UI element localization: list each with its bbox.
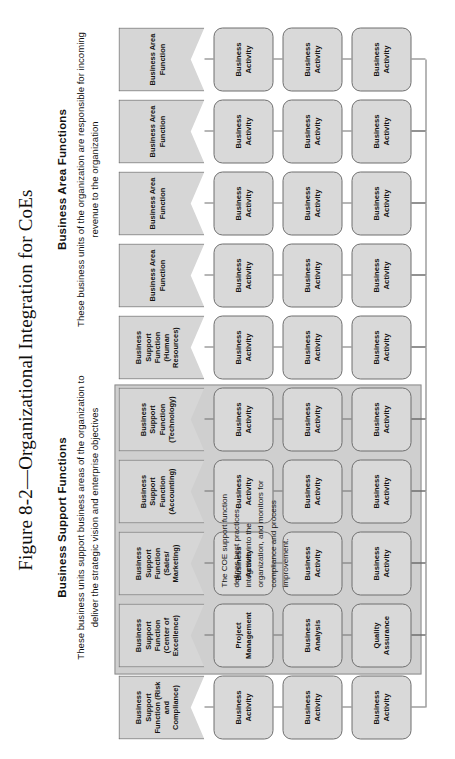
activity-label: Business Activity <box>233 172 253 234</box>
bracket-segment <box>411 706 425 707</box>
activity-box[interactable]: Business Activity <box>351 387 411 451</box>
connector <box>204 347 213 348</box>
activity-label: Business Activity <box>233 244 253 306</box>
activity-box[interactable]: Business Activity <box>213 315 273 379</box>
connector <box>204 59 213 60</box>
connector <box>342 347 351 348</box>
bracket-segment <box>411 634 425 635</box>
connector <box>342 419 351 420</box>
business-support-functions-subtitle: These business units support business ar… <box>73 367 101 667</box>
activity-box[interactable]: Business Activity <box>351 171 411 235</box>
column-header-label: Business Area Function <box>147 100 166 162</box>
column-header-business-area-3[interactable]: Business Area Function <box>118 99 204 163</box>
column-business-area-2[interactable]: Business Area FunctionBusiness ActivityB… <box>118 171 411 235</box>
column-header-label: Business Support Function (Accounting) <box>138 460 175 522</box>
connector <box>342 491 351 492</box>
activity-box[interactable]: Business Activity <box>282 27 342 91</box>
activity-box[interactable]: Business Activity <box>213 99 273 163</box>
activity-label: Business Activity <box>233 28 253 90</box>
column-header-label: Business Support Function (Human Resourc… <box>133 316 180 378</box>
activity-box[interactable]: Quality Assurance <box>351 603 411 667</box>
column-header-sales-marketing[interactable]: Business Support Function (Sales/ Market… <box>118 531 204 595</box>
activity-box[interactable]: Business Activity <box>213 243 273 307</box>
activity-label: Business Activity <box>302 388 322 450</box>
activity-box[interactable]: Business Activity <box>351 315 411 379</box>
column-header-label: Business Area Function <box>147 28 166 90</box>
column-header-label: Business Support Function (Technology) <box>138 388 175 450</box>
column-header-risk-and-compliance[interactable]: Business Support Function (Risk and Comp… <box>118 675 204 739</box>
connector <box>273 347 282 348</box>
activity-box[interactable]: Business Analysis <box>282 603 342 667</box>
column-human-resources[interactable]: Business Support Function (Human Resourc… <box>118 315 411 379</box>
activity-label: Business Activity <box>233 676 253 738</box>
activity-box[interactable]: Business Activity <box>213 387 273 451</box>
bracket-segment <box>425 491 426 563</box>
activity-box[interactable]: Business Activity <box>351 27 411 91</box>
column-business-area-1[interactable]: Business Area FunctionBusiness ActivityB… <box>118 243 411 307</box>
figure-title: Figure 8-2—Organizational Integration fo… <box>14 0 36 759</box>
connector <box>342 275 351 276</box>
column-header-human-resources[interactable]: Business Support Function (Human Resourc… <box>118 315 204 379</box>
activity-label: Business Activity <box>302 244 322 306</box>
connector <box>342 635 351 636</box>
column-business-area-3[interactable]: Business Area FunctionBusiness ActivityB… <box>118 99 411 163</box>
connector <box>273 419 282 420</box>
column-technology[interactable]: Business Support Function (Technology)Bu… <box>118 387 411 451</box>
activity-box[interactable]: Business Activity <box>213 27 273 91</box>
connector <box>342 563 351 564</box>
activity-label: Business Activity <box>371 388 391 450</box>
bracket-segment <box>425 203 426 275</box>
connector <box>204 707 213 708</box>
activity-box[interactable]: Business Activity <box>282 99 342 163</box>
bracket-segment <box>411 202 425 203</box>
activity-label: Business Activity <box>302 172 322 234</box>
activity-box[interactable]: Business Activity <box>351 99 411 163</box>
activity-label: Business Activity <box>371 460 391 522</box>
activity-box[interactable]: Project Management <box>213 603 273 667</box>
connector <box>273 635 282 636</box>
activity-label: Business Activity <box>302 532 322 594</box>
activity-label: Business Activity <box>233 100 253 162</box>
connector <box>273 707 282 708</box>
activity-box[interactable]: Business Activity <box>282 315 342 379</box>
activity-box[interactable]: Business Activity <box>351 459 411 523</box>
bracket-segment <box>425 275 426 347</box>
activity-label: Business Activity <box>302 28 322 90</box>
bracket-segment <box>425 635 426 707</box>
coe-note: The COE support function defines best pr… <box>218 475 291 587</box>
activity-label: Business Activity <box>302 460 322 522</box>
column-header-label: Business Support Function (Risk and Comp… <box>133 676 180 738</box>
connector <box>342 707 351 708</box>
connector <box>204 563 213 564</box>
bracket-segment <box>411 562 425 563</box>
activity-box[interactable]: Business Activity <box>213 675 273 739</box>
activity-box[interactable]: Business Activity <box>282 387 342 451</box>
activity-box[interactable]: Business Activity <box>351 243 411 307</box>
bracket-segment <box>425 419 426 491</box>
column-header-technology[interactable]: Business Support Function (Technology) <box>118 387 204 451</box>
column-header-label: Business Area Function <box>147 172 166 234</box>
bracket-segment <box>411 130 425 131</box>
column-header-business-area-4[interactable]: Business Area Function <box>118 27 204 91</box>
activity-box[interactable]: Business Activity <box>351 531 411 595</box>
activity-label: Business Activity <box>371 532 391 594</box>
activity-box[interactable]: Business Activity <box>282 675 342 739</box>
column-header-business-area-1[interactable]: Business Area Function <box>118 243 204 307</box>
business-support-functions-title: Business Support Functions <box>55 367 67 667</box>
column-center-of-excellence[interactable]: Business Support Function (Center of Exc… <box>118 603 411 667</box>
column-header-business-area-2[interactable]: Business Area Function <box>118 171 204 235</box>
activity-box[interactable]: Business Activity <box>213 171 273 235</box>
column-business-area-4[interactable]: Business Area FunctionBusiness ActivityB… <box>118 27 411 91</box>
activity-box[interactable]: Business Activity <box>282 171 342 235</box>
activity-label: Business Activity <box>371 676 391 738</box>
activity-box[interactable]: Business Activity <box>282 243 342 307</box>
activity-box[interactable]: Business Activity <box>351 675 411 739</box>
column-risk-and-compliance[interactable]: Business Support Function (Risk and Comp… <box>118 675 411 739</box>
column-header-center-of-excellence[interactable]: Business Support Function (Center of Exc… <box>118 603 204 667</box>
bracket-segment <box>411 418 425 419</box>
bracket-segment <box>411 490 425 491</box>
connector <box>273 131 282 132</box>
column-header-accounting[interactable]: Business Support Function (Accounting) <box>118 459 204 523</box>
activity-label: Project Management <box>233 604 253 666</box>
activity-label: Business Activity <box>302 316 322 378</box>
